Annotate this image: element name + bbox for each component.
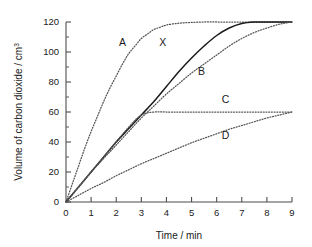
x-tick-label: 2 [114, 207, 119, 218]
x-tick-label: 6 [214, 207, 219, 218]
curve-label-x: X [159, 36, 166, 48]
x-tick-label: 0 [63, 207, 68, 218]
x-tick-label: 3 [139, 207, 144, 218]
y-tick-label: 120 [43, 16, 59, 27]
y-axis-title-superscript: 3 [13, 43, 20, 47]
x-tick-label: 7 [239, 207, 244, 218]
x-tick-label: 8 [264, 207, 269, 218]
y-axis-title: Volume of carbon dioxide / cm3 [13, 43, 24, 181]
curve-label-c: C [222, 93, 230, 105]
y-tick-label: 100 [43, 46, 59, 57]
curve-label-b: B [198, 65, 205, 77]
x-tick-label: 5 [189, 207, 194, 218]
curve-c [66, 112, 292, 202]
curve-label-d: D [222, 129, 230, 141]
axis-titles-group: Time / min Volume of carbon dioxide / cm… [13, 43, 202, 241]
chart-figure: 0204060801001200123456789 AXBCD Time / m… [0, 0, 312, 247]
curve-d [66, 112, 292, 202]
x-tick-label: 1 [88, 207, 93, 218]
y-tick-label: 40 [48, 136, 59, 147]
y-tick-label: 80 [48, 76, 59, 87]
x-tick-label: 9 [289, 207, 294, 218]
y-tick-label: 60 [48, 106, 59, 117]
x-tick-label: 4 [164, 207, 169, 218]
x-axis-title: Time / min [156, 230, 202, 241]
curve-label-a: A [119, 36, 126, 48]
y-axis-title-text: Volume of carbon dioxide / cm [13, 47, 24, 181]
curve-labels-group: AXBCD [119, 36, 230, 141]
line-chart-svg: 0204060801001200123456789 AXBCD Time / m… [0, 0, 312, 247]
y-tick-label: 20 [48, 166, 59, 177]
y-tick-label: 0 [54, 196, 59, 207]
curves-group [66, 22, 292, 202]
tick-labels-group: 0204060801001200123456789 [43, 16, 295, 218]
